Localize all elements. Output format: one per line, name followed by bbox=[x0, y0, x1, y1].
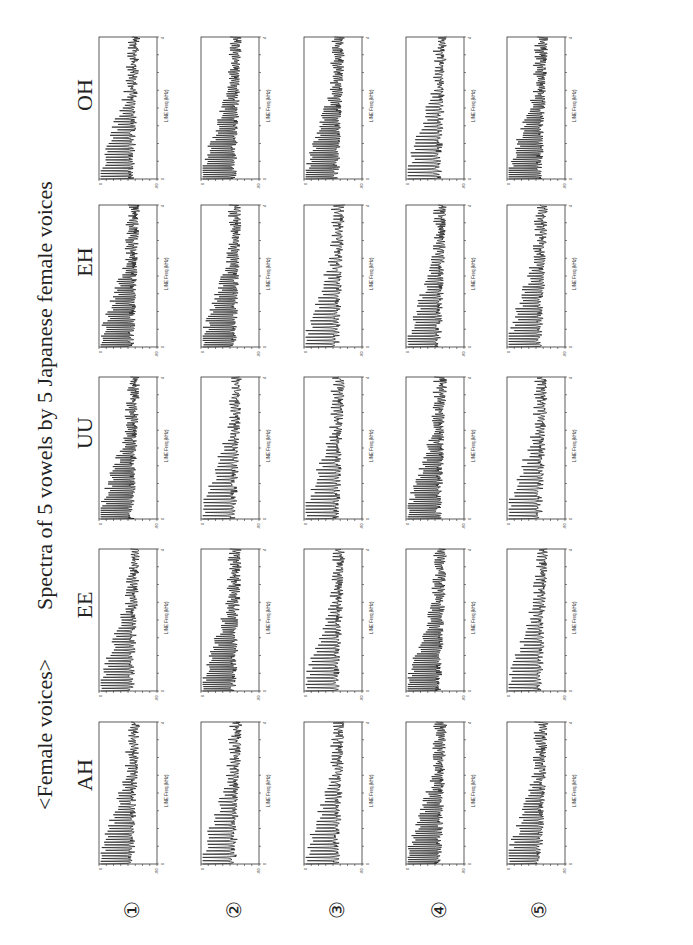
spectrum-panel-r2-eh: 04LINE Freq.(kHz)0-80 bbox=[199, 201, 271, 353]
group-label: <Female voices> bbox=[32, 659, 58, 810]
x-axis-label: LINE Freq.(kHz) bbox=[572, 89, 577, 122]
x-tick-min: 0 bbox=[467, 517, 472, 520]
spectrum-panel-r2-ah: 04LINE Freq.(kHz)0-80 bbox=[199, 718, 271, 870]
y-tick-top: 0 bbox=[303, 694, 308, 697]
x-axis-label: LINE Freq.(kHz) bbox=[164, 89, 169, 122]
row-marker-2: ② bbox=[222, 895, 246, 925]
x-tick-max: 4 bbox=[467, 376, 472, 379]
x-tick-max: 4 bbox=[467, 548, 472, 551]
x-tick-min: 0 bbox=[262, 517, 267, 520]
x-tick-min: 0 bbox=[365, 177, 370, 180]
y-tick-top: 0 bbox=[98, 350, 103, 353]
spectrum-panel-r3-ah: 04LINE Freq.(kHz)0-80 bbox=[302, 718, 374, 870]
x-axis-label: LINE Freq.(kHz) bbox=[369, 601, 374, 634]
y-tick-top: 0 bbox=[405, 350, 410, 353]
y-tick-bottom: -80 bbox=[256, 522, 261, 529]
y-tick-top: 0 bbox=[506, 350, 511, 353]
x-tick-max: 4 bbox=[365, 36, 370, 39]
x-axis-label: LINE Freq.(kHz) bbox=[369, 429, 374, 462]
x-tick-max: 4 bbox=[568, 204, 573, 207]
y-tick-top: 0 bbox=[506, 694, 511, 697]
spectrum-panel-r2-uu: 04LINE Freq.(kHz)0-80 bbox=[199, 373, 271, 525]
y-tick-bottom: -80 bbox=[154, 867, 159, 874]
spectrum-panel-r4-ee: 04LINE Freq.(kHz)0-80 bbox=[404, 545, 476, 697]
x-tick-min: 0 bbox=[262, 689, 267, 692]
x-tick-min: 0 bbox=[365, 689, 370, 692]
y-tick-bottom: -80 bbox=[562, 522, 567, 529]
x-axis-label: LINE Freq.(kHz) bbox=[572, 429, 577, 462]
spectrum-panel-r5-oh: 04LINE Freq.(kHz)0-80 bbox=[505, 33, 577, 185]
x-tick-max: 4 bbox=[568, 376, 573, 379]
x-tick-min: 0 bbox=[365, 862, 370, 865]
y-tick-bottom: -80 bbox=[359, 182, 364, 189]
x-tick-max: 4 bbox=[160, 204, 165, 207]
x-tick-min: 0 bbox=[160, 177, 165, 180]
spectrum-panel-r1-uu: 04LINE Freq.(kHz)0-80 bbox=[97, 373, 169, 525]
x-axis-label: LINE Freq.(kHz) bbox=[572, 601, 577, 634]
x-tick-min: 0 bbox=[160, 345, 165, 348]
spectrum-panel-r5-uu: 04LINE Freq.(kHz)0-80 bbox=[505, 373, 577, 525]
page-title: Spectra of 5 vowels by 5 Japanese female… bbox=[32, 181, 58, 610]
row-marker-4: ④ bbox=[427, 895, 451, 925]
x-tick-min: 0 bbox=[568, 862, 573, 865]
x-axis-label: LINE Freq.(kHz) bbox=[369, 774, 374, 807]
y-tick-top: 0 bbox=[200, 350, 205, 353]
spectrum-panel-r1-ah: 04LINE Freq.(kHz)0-80 bbox=[97, 718, 169, 870]
spectrum-panel-r3-uu: 04LINE Freq.(kHz)0-80 bbox=[302, 373, 374, 525]
x-tick-max: 4 bbox=[160, 36, 165, 39]
spectrum-panel-r5-ee: 04LINE Freq.(kHz)0-80 bbox=[505, 545, 577, 697]
x-tick-max: 4 bbox=[365, 204, 370, 207]
x-tick-max: 4 bbox=[262, 36, 267, 39]
y-tick-top: 0 bbox=[98, 867, 103, 870]
spectrum-panel-r1-ee: 04LINE Freq.(kHz)0-80 bbox=[97, 545, 169, 697]
y-tick-bottom: -80 bbox=[562, 182, 567, 189]
x-tick-min: 0 bbox=[160, 517, 165, 520]
y-tick-bottom: -80 bbox=[154, 522, 159, 529]
y-tick-top: 0 bbox=[405, 182, 410, 185]
spectrum-panel-r4-uu: 04LINE Freq.(kHz)0-80 bbox=[404, 373, 476, 525]
x-tick-max: 4 bbox=[365, 548, 370, 551]
y-tick-bottom: -80 bbox=[256, 867, 261, 874]
row-marker-5: ⑤ bbox=[527, 895, 551, 925]
column-heading-oh: OH bbox=[72, 20, 98, 170]
x-tick-max: 4 bbox=[568, 36, 573, 39]
y-tick-bottom: -80 bbox=[154, 182, 159, 189]
spectrum-panel-r1-eh: 04LINE Freq.(kHz)0-80 bbox=[97, 201, 169, 353]
x-tick-min: 0 bbox=[365, 345, 370, 348]
spectrum-panel-r3-ee: 04LINE Freq.(kHz)0-80 bbox=[302, 545, 374, 697]
row-marker-3: ③ bbox=[325, 895, 349, 925]
x-tick-max: 4 bbox=[568, 721, 573, 724]
y-tick-top: 0 bbox=[405, 522, 410, 525]
y-tick-bottom: -80 bbox=[359, 522, 364, 529]
y-tick-top: 0 bbox=[405, 694, 410, 697]
x-tick-min: 0 bbox=[262, 345, 267, 348]
y-tick-bottom: -80 bbox=[461, 182, 466, 189]
spectrum-panel-r5-eh: 04LINE Freq.(kHz)0-80 bbox=[505, 201, 577, 353]
x-axis-label: LINE Freq.(kHz) bbox=[572, 257, 577, 290]
x-tick-max: 4 bbox=[160, 376, 165, 379]
y-tick-bottom: -80 bbox=[562, 350, 567, 357]
y-tick-bottom: -80 bbox=[359, 867, 364, 874]
x-tick-max: 4 bbox=[160, 721, 165, 724]
y-tick-top: 0 bbox=[98, 182, 103, 185]
y-tick-bottom: -80 bbox=[256, 350, 261, 357]
spectrum-panel-r4-ah: 04LINE Freq.(kHz)0-80 bbox=[404, 718, 476, 870]
x-tick-max: 4 bbox=[467, 204, 472, 207]
x-tick-max: 4 bbox=[160, 548, 165, 551]
x-axis-label: LINE Freq.(kHz) bbox=[164, 257, 169, 290]
y-tick-bottom: -80 bbox=[461, 350, 466, 357]
column-heading-ah: AH bbox=[72, 700, 98, 850]
y-tick-top: 0 bbox=[200, 522, 205, 525]
y-tick-top: 0 bbox=[506, 867, 511, 870]
x-tick-max: 4 bbox=[262, 204, 267, 207]
x-tick-min: 0 bbox=[365, 517, 370, 520]
y-tick-top: 0 bbox=[200, 182, 205, 185]
x-tick-max: 4 bbox=[467, 721, 472, 724]
x-axis-label: LINE Freq.(kHz) bbox=[266, 257, 271, 290]
x-axis-label: LINE Freq.(kHz) bbox=[471, 257, 476, 290]
spectrum-panel-r2-ee: 04LINE Freq.(kHz)0-80 bbox=[199, 545, 271, 697]
x-axis-label: LINE Freq.(kHz) bbox=[266, 429, 271, 462]
column-heading-eh: EH bbox=[72, 187, 98, 337]
y-tick-bottom: -80 bbox=[154, 350, 159, 357]
y-tick-bottom: -80 bbox=[154, 694, 159, 701]
